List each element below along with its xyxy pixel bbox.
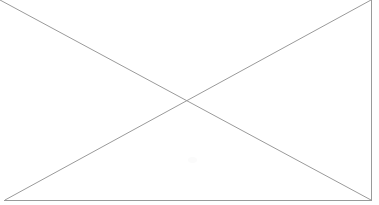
placeholder-graphic [0,0,379,205]
broken-image-placeholder [0,0,379,205]
